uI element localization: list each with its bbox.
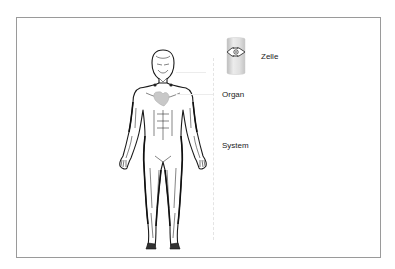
level-divider [213, 58, 214, 240]
human-body-figure-icon [118, 48, 208, 250]
label-system: System [222, 141, 249, 151]
cell-icon [224, 36, 248, 76]
connector-organ [176, 94, 213, 95]
label-cell: Zelle [261, 52, 278, 62]
label-organ: Organ [222, 90, 244, 100]
connector-cell [176, 72, 206, 73]
